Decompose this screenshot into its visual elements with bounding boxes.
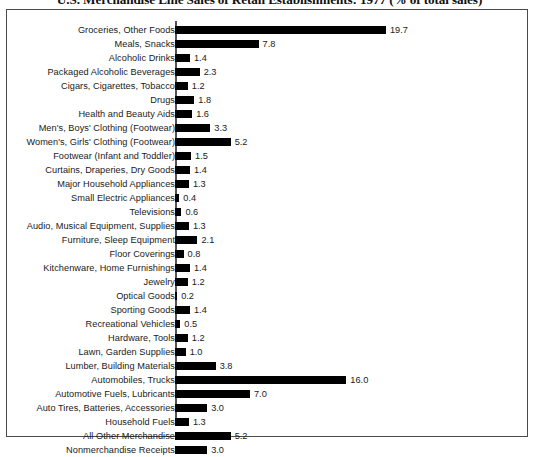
category-label: Nonmerchandise Receipts bbox=[66, 443, 175, 457]
bar-value-label: 7.0 bbox=[250, 387, 267, 401]
bar-row: Footwear (Infant and Toddler)1.5 bbox=[7, 149, 529, 163]
bar bbox=[175, 348, 186, 356]
bar-value-label: 3.0 bbox=[207, 401, 224, 415]
bar-row: Jewelry1.2 bbox=[7, 275, 529, 289]
bar-track: 0.2 bbox=[175, 289, 529, 303]
bar-track: 1.2 bbox=[175, 275, 529, 289]
bar-value-label: 1.3 bbox=[189, 219, 206, 233]
bar-track: 1.2 bbox=[175, 331, 529, 345]
bar-track: 2.1 bbox=[175, 233, 529, 247]
bar-value-label: 1.4 bbox=[190, 303, 207, 317]
bar-row: Lawn, Garden Supplies1.0 bbox=[7, 345, 529, 359]
bar-row: Alcoholic Drinks1.4 bbox=[7, 51, 529, 65]
bar-value-label: 1.2 bbox=[188, 275, 205, 289]
bar-row: Automobiles, Trucks16.0 bbox=[7, 373, 529, 387]
bar-value-label: 1.3 bbox=[189, 415, 206, 429]
bar bbox=[175, 40, 259, 48]
category-label: Meals, Snacks bbox=[115, 37, 175, 51]
bar-row: Audio, Musical Equipment, Supplies1.3 bbox=[7, 219, 529, 233]
bar-row: Curtains, Draperies, Dry Goods1.4 bbox=[7, 163, 529, 177]
category-label: Automobiles, Trucks bbox=[91, 373, 175, 387]
bar-track: 1.4 bbox=[175, 261, 529, 275]
bar-track: 3.8 bbox=[175, 359, 529, 373]
category-label: All Other Merchandise bbox=[83, 429, 175, 443]
bar-row: Nonmerchandise Receipts3.0 bbox=[7, 443, 529, 457]
bar bbox=[175, 334, 188, 342]
bar bbox=[175, 306, 190, 314]
bar-track: 19.7 bbox=[175, 23, 529, 37]
bar bbox=[175, 432, 231, 440]
bar-track: 1.3 bbox=[175, 219, 529, 233]
bar bbox=[175, 54, 190, 62]
category-label: Alcoholic Drinks bbox=[109, 51, 175, 65]
bar bbox=[175, 446, 207, 454]
bar bbox=[175, 26, 386, 34]
bar-track: 1.8 bbox=[175, 93, 529, 107]
bar-row: Televisions0.6 bbox=[7, 205, 529, 219]
bar-row: Major Household Appliances1.3 bbox=[7, 177, 529, 191]
bar-row: Furniture, Sleep Equipment2.1 bbox=[7, 233, 529, 247]
bar bbox=[175, 390, 250, 398]
bar-value-label: 2.1 bbox=[197, 233, 214, 247]
bar-track: 1.4 bbox=[175, 303, 529, 317]
bar-track: 0.6 bbox=[175, 205, 529, 219]
bar bbox=[175, 152, 191, 160]
bar bbox=[175, 264, 190, 272]
bar-row: Recreational Vehicles0.5 bbox=[7, 317, 529, 331]
bar-track: 16.0 bbox=[175, 373, 529, 387]
bar-value-label: 1.0 bbox=[186, 345, 203, 359]
bar bbox=[175, 96, 194, 104]
bar-value-label: 0.4 bbox=[179, 191, 196, 205]
bar bbox=[175, 222, 189, 230]
bar-value-label: 5.2 bbox=[231, 135, 248, 149]
bar bbox=[175, 110, 192, 118]
category-label: Televisions bbox=[130, 205, 176, 219]
bar bbox=[175, 250, 184, 258]
bar-value-label: 1.2 bbox=[188, 79, 205, 93]
bar-value-label: 2.3 bbox=[200, 65, 217, 79]
bar-track: 0.5 bbox=[175, 317, 529, 331]
bar-value-label: 3.3 bbox=[210, 121, 227, 135]
bar-track: 1.6 bbox=[175, 107, 529, 121]
bar bbox=[175, 68, 200, 76]
chart-title: U.S. Merchandise Line Sales of Retail Es… bbox=[0, 0, 539, 7]
bar-track: 7.8 bbox=[175, 37, 529, 51]
bar-row: Small Electric Appliances0.4 bbox=[7, 191, 529, 205]
bar-value-label: 1.6 bbox=[192, 107, 209, 121]
bar-track: 2.3 bbox=[175, 65, 529, 79]
bar-row: Health and Beauty Aids1.6 bbox=[7, 107, 529, 121]
category-label: Packaged Alcoholic Beverages bbox=[47, 65, 175, 79]
bar-track: 1.4 bbox=[175, 163, 529, 177]
bar-row: All Other Merchandise5.2 bbox=[7, 429, 529, 443]
category-label: Furniture, Sleep Equipment bbox=[62, 233, 175, 247]
category-label: Footwear (Infant and Toddler) bbox=[53, 149, 175, 163]
category-label: Health and Beauty Aids bbox=[78, 107, 175, 121]
category-label: Audio, Musical Equipment, Supplies bbox=[27, 219, 175, 233]
bar-row: Drugs1.8 bbox=[7, 93, 529, 107]
category-label: Drugs bbox=[150, 93, 175, 107]
bar-value-label: 1.5 bbox=[191, 149, 208, 163]
bar-row: Groceries, Other Foods19.7 bbox=[7, 23, 529, 37]
bar-value-label: 0.8 bbox=[184, 247, 201, 261]
bar-value-label: 1.4 bbox=[190, 261, 207, 275]
bar-row: Cigars, Cigarettes, Tobacco1.2 bbox=[7, 79, 529, 93]
bar-row: Packaged Alcoholic Beverages2.3 bbox=[7, 65, 529, 79]
bar-value-label: 3.0 bbox=[207, 443, 224, 457]
bar bbox=[175, 166, 190, 174]
category-label: Cigars, Cigarettes, Tobacco bbox=[61, 79, 175, 93]
bar-value-label: 0.2 bbox=[177, 289, 194, 303]
bar-track: 3.3 bbox=[175, 121, 529, 135]
bar-track: 0.4 bbox=[175, 191, 529, 205]
category-label: Groceries, Other Foods bbox=[78, 23, 175, 37]
category-label: Small Electric Appliances bbox=[71, 191, 175, 205]
bar-row: Lumber, Building Materials3.8 bbox=[7, 359, 529, 373]
bar-track: 3.0 bbox=[175, 443, 529, 457]
bar-value-label: 16.0 bbox=[346, 373, 368, 387]
category-label: Women's, Girls' Clothing (Footwear) bbox=[26, 135, 175, 149]
bar-track: 1.0 bbox=[175, 345, 529, 359]
bar-value-label: 1.4 bbox=[190, 51, 207, 65]
bar-track: 5.2 bbox=[175, 429, 529, 443]
category-label: Hardware, Tools bbox=[108, 331, 175, 345]
bar-track: 1.3 bbox=[175, 415, 529, 429]
category-label: Curtains, Draperies, Dry Goods bbox=[45, 163, 175, 177]
